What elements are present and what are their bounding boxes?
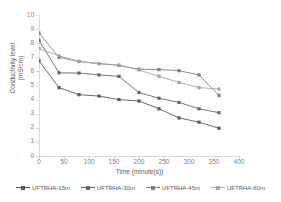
data-point-marker [177, 101, 180, 104]
legend-label: UFTRHA-60m [227, 185, 265, 191]
legend-item-uftrha-45m[interactable]: UFTRHA-45m [146, 184, 200, 191]
data-point-marker [217, 94, 220, 97]
data-point-marker [217, 87, 220, 90]
data-point-marker [177, 116, 180, 119]
data-point-marker [77, 93, 80, 96]
data-point-marker [117, 63, 120, 66]
series-uftrha-60m [39, 47, 221, 91]
legend-key-icon [16, 184, 30, 191]
x-tick-mark [239, 156, 240, 159]
series-uftrha-30m [39, 39, 221, 115]
legend-label: UFTRHA-30m [97, 185, 135, 191]
x-tick-label: 400 [229, 159, 249, 166]
plot-area [39, 15, 239, 156]
data-point-marker [137, 68, 140, 71]
series-uftrha-45m [39, 31, 221, 97]
x-tick-label: 200 [129, 159, 149, 166]
series-line [39, 49, 219, 89]
legend-label: UFTRHA-15m [32, 185, 70, 191]
data-point-marker [157, 75, 160, 78]
legend-item-uftrha-60m[interactable]: UFTRHA-60m [211, 184, 265, 191]
x-tick-mark [189, 156, 190, 159]
data-point-marker [177, 81, 180, 84]
data-point-marker [77, 71, 80, 74]
x-tick-mark [214, 156, 215, 159]
x-tick-mark [39, 156, 40, 159]
data-point-marker [157, 107, 160, 110]
x-tick-label: 150 [104, 159, 124, 166]
data-point-marker [117, 75, 120, 78]
data-point-marker [197, 107, 200, 110]
data-point-marker [57, 86, 60, 89]
x-tick-mark [64, 156, 65, 159]
data-point-marker [57, 54, 60, 57]
conductivity-line-chart: 012345678910 050100150200250300350400 Co… [0, 0, 281, 202]
data-point-marker [39, 31, 41, 34]
x-tick-label: 0 [29, 159, 49, 166]
x-tick-label: 350 [204, 159, 224, 166]
data-point-marker [97, 73, 100, 76]
y-axis-title: Conductivity level(mS/cm) [9, 13, 25, 123]
data-point-marker [97, 62, 100, 65]
legend-key-icon [211, 184, 225, 191]
data-point-marker [197, 121, 200, 124]
data-point-marker [137, 91, 140, 94]
legend-key-icon [146, 184, 160, 191]
series-line [39, 61, 219, 128]
x-tick-label: 100 [79, 159, 99, 166]
data-point-marker [217, 111, 220, 114]
x-tick-mark [164, 156, 165, 159]
data-point-marker [77, 60, 80, 63]
x-axis-title: Time (minute(s)) [39, 168, 240, 175]
x-tick-label: 50 [54, 159, 74, 166]
data-point-marker [97, 94, 100, 97]
data-point-marker [197, 86, 200, 89]
data-point-marker [39, 59, 41, 62]
chart-legend: UFTRHA-15mUFTRHA-30mUFTRHA-45mUFTRHA-60m [0, 184, 281, 191]
data-point-marker [157, 97, 160, 100]
x-tick-mark [89, 156, 90, 159]
x-tick-mark [139, 156, 140, 159]
data-point-marker [157, 68, 160, 71]
data-point-marker [39, 39, 41, 42]
legend-key-icon [81, 184, 95, 191]
data-point-marker [57, 71, 60, 74]
legend-label: UFTRHA-45m [162, 185, 200, 191]
series-line [39, 40, 219, 112]
x-tick-mark [114, 156, 115, 159]
data-point-marker [217, 127, 220, 130]
data-point-marker [197, 73, 200, 76]
x-tick-label: 250 [154, 159, 174, 166]
data-point-marker [177, 69, 180, 72]
legend-item-uftrha-30m[interactable]: UFTRHA-30m [81, 184, 135, 191]
data-point-marker [117, 98, 120, 101]
data-point-marker [39, 47, 41, 50]
series-uftrha-15m [39, 59, 221, 130]
data-point-marker [137, 99, 140, 102]
x-tick-label: 300 [179, 159, 199, 166]
legend-item-uftrha-15m[interactable]: UFTRHA-15m [16, 184, 70, 191]
